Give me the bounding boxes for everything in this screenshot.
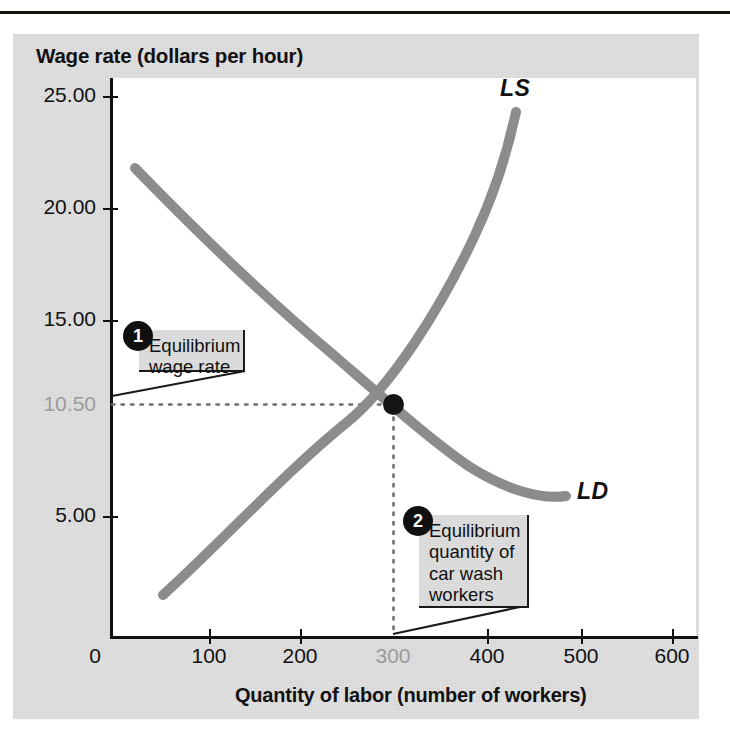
labour-supply-curve-label: LS bbox=[500, 75, 530, 102]
callout-2-box: Equilibrium quantity of car wash workers bbox=[419, 515, 529, 608]
callout-2-leader-line bbox=[393, 607, 520, 634]
callout-1-line-2: wage rate bbox=[149, 356, 233, 377]
callout-2-line-3: car wash bbox=[429, 563, 517, 584]
callout-2-line-2: quantity of bbox=[429, 541, 517, 562]
callout-1-box: Equilibrium wage rate bbox=[139, 330, 245, 372]
callout-1-number-badge: 1 bbox=[123, 321, 153, 351]
callout-2-line-1: Equilibrium bbox=[429, 520, 517, 541]
figure-root: Wage rate (dollars per hour) Quantity of… bbox=[0, 0, 730, 731]
equilibrium-point-marker bbox=[383, 394, 404, 415]
labour-demand-curve-label: LD bbox=[577, 478, 609, 505]
callout-2-line-4: workers bbox=[429, 584, 517, 605]
callout-2-number-badge: 2 bbox=[403, 506, 433, 536]
callout-1-line-1: Equilibrium bbox=[149, 335, 233, 356]
curves-layer bbox=[0, 0, 730, 731]
